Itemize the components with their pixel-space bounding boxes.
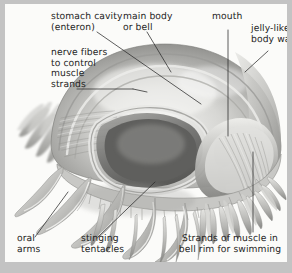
- figure-frame: stomach cavity (enteron) nerve fibers to…: [0, 0, 292, 273]
- label-oral-arms: oral arms: [17, 234, 40, 255]
- label-main-body: main body or bell: [123, 12, 173, 33]
- jellyfish-illustration: [5, 4, 287, 262]
- label-jelly-wall: jelly-like body wall: [251, 24, 287, 45]
- label-bell-muscle: Strands of muscle in bell rim for swimmi…: [175, 234, 285, 255]
- label-nerve-fibers: nerve fibers to control muscle strands: [51, 48, 107, 90]
- figure-plate: stomach cavity (enteron) nerve fibers to…: [5, 4, 287, 262]
- label-mouth: mouth: [212, 12, 242, 23]
- label-stomach-cavity: stomach cavity (enteron): [51, 12, 123, 33]
- label-stinging-tentacles: stinging tentacles: [81, 234, 124, 255]
- jellyfish-anatomy-figure: stomach cavity (enteron) nerve fibers to…: [0, 0, 292, 273]
